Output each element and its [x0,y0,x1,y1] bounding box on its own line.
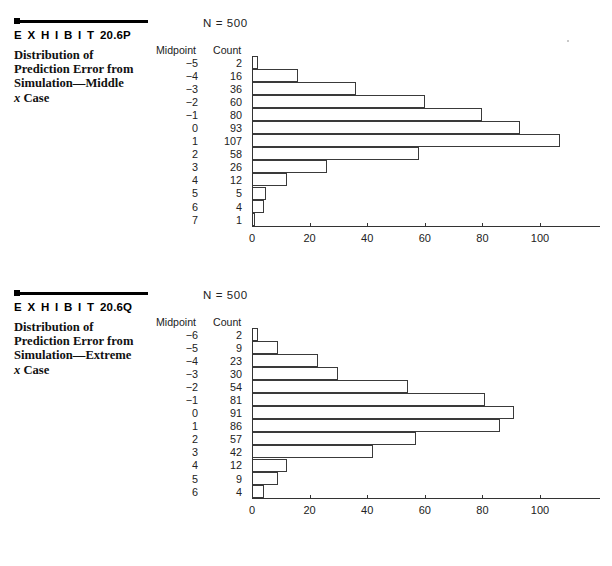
cell-midpoint: −3 [150,369,198,380]
histogram-bar [252,432,416,445]
scan-artifact-speck [567,40,569,42]
cell-midpoint: 7 [150,215,198,226]
cell-midpoint: 5 [150,474,198,485]
x-axis-tick [310,495,311,499]
cell-count: 4 [202,202,242,213]
x-axis-tick-label: 20 [303,232,315,244]
histogram-bar [252,472,278,485]
exhibit-label-number: 20.6Q [100,301,132,313]
exhibit-caption: Distribution of Prediction Error from Si… [14,48,154,105]
midpoint-count-table: −62−59−423−330−254−181091186257342412596… [150,330,245,500]
cell-midpoint: −4 [150,356,198,367]
caption-line-1: Distribution of [14,48,154,62]
cell-count: 80 [202,110,242,121]
sample-size-label: N = 500 [203,289,248,301]
cell-count: 2 [202,330,242,341]
cell-midpoint: 1 [150,421,198,432]
x-axis-tick [367,223,368,227]
cell-count: 12 [202,460,242,471]
caption-line-4: x Case [14,363,154,377]
x-axis-tick-label: 60 [419,232,431,244]
cell-midpoint: 0 [150,408,198,419]
caption-line-3: Simulation—Extreme [14,348,154,362]
histogram-plot: 020406080100 [252,56,600,256]
column-header-count: Count [213,316,241,328]
caption-line-3: Simulation—Middle [14,76,154,90]
rule-line [17,292,148,295]
x-axis-tick [540,495,541,499]
histogram-bar [252,108,482,121]
sample-size-label: N = 500 [203,17,248,29]
cell-midpoint: −4 [150,71,198,82]
cell-midpoint: 3 [150,162,198,173]
cell-midpoint: 4 [150,460,198,471]
y-axis-line [252,328,253,498]
caption-line-2: Prediction Error from [14,62,154,76]
cell-count: 60 [202,97,242,108]
histogram-bar [252,173,287,186]
cell-midpoint: 6 [150,487,198,498]
cell-count: 23 [202,356,242,367]
caption-line-4-rest: Case [20,363,49,377]
cell-count: 58 [202,149,242,160]
exhibit-label-prefix: E X H I B I T [14,29,95,41]
cell-count: 9 [202,343,242,354]
cell-midpoint: 2 [150,434,198,445]
cell-count: 30 [202,369,242,380]
cell-count: 57 [202,434,242,445]
histogram-bar [252,187,266,200]
exhibit-label: E X H I B I T 20.6Q [14,301,154,313]
histogram-bar [252,147,419,160]
cell-count: 86 [202,421,242,432]
x-axis-tick [367,495,368,499]
cell-midpoint: −2 [150,382,198,393]
cell-midpoint: −6 [150,330,198,341]
histogram-bar [252,406,514,419]
exhibit-label: E X H I B I T 20.6P [14,29,154,41]
cell-count: 1 [202,215,242,226]
histogram-bar [252,200,264,213]
cell-midpoint: −1 [150,110,198,121]
x-axis-tick [425,223,426,227]
exhibit-label-prefix: E X H I B I T [14,301,95,313]
histogram-bar [252,69,298,82]
midpoint-count-table: −52−416−336−260−180093110725832641255647… [150,58,245,228]
caption-line-4: x Case [14,91,154,105]
cell-count: 26 [202,162,242,173]
histogram-bar [252,134,560,147]
cell-midpoint: 6 [150,202,198,213]
rule-line [17,20,148,23]
table-row: 71 [150,215,245,228]
histogram-bar [252,82,356,95]
exhibit-rule [14,290,148,299]
table-row: 64 [150,202,245,215]
cell-midpoint: −3 [150,84,198,95]
column-header-count: Count [213,44,241,56]
exhibit-caption: Distribution of Prediction Error from Si… [14,320,154,377]
x-axis-tick-label: 0 [249,504,255,516]
x-axis-tick [482,495,483,499]
caption-line-4-rest: Case [20,91,49,105]
cell-count: 107 [202,136,242,147]
column-header-midpoint: Midpoint [156,44,196,56]
x-axis-tick [310,223,311,227]
histogram-bar [252,393,485,406]
histogram-bar [252,354,318,367]
y-axis-line [252,56,253,226]
x-axis-tick-label: 0 [249,232,255,244]
x-axis-line [252,498,600,499]
histogram-bar [252,445,373,458]
table-row: 412 [150,460,245,473]
caption-line-2: Prediction Error from [14,334,154,348]
cell-midpoint: 0 [150,123,198,134]
x-axis-tick-label: 40 [361,232,373,244]
cell-midpoint: 4 [150,175,198,186]
histogram-bar [252,121,520,134]
cell-midpoint: −1 [150,395,198,406]
histogram-bar [252,341,278,354]
exhibit-label-number: 20.6P [100,29,131,41]
cell-count: 36 [202,84,242,95]
histogram-bar [252,380,408,393]
cell-count: 91 [202,408,242,419]
caption-line-1: Distribution of [14,320,154,334]
